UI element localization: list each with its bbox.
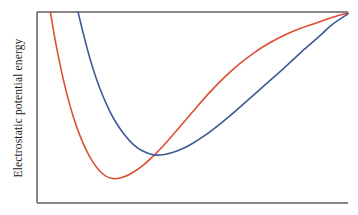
axis-frame <box>37 12 348 203</box>
plot-area <box>0 0 358 215</box>
data-curves <box>50 12 348 179</box>
chart-figure: Electrostatic potential energy <box>0 0 358 215</box>
red-curve <box>50 12 348 179</box>
blue-curve <box>78 12 348 155</box>
